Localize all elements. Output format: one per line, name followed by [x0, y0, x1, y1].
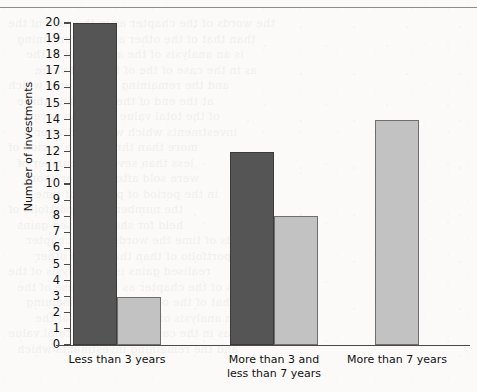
y-axis-tick-label: 1 — [36, 323, 60, 335]
y-axis-tick-label: 2 — [36, 307, 60, 319]
y-axis-tick-label: 20 — [36, 17, 60, 29]
bar-light-2 — [375, 120, 419, 345]
x-axis-line — [56, 345, 470, 346]
y-axis-tick-label: 15 — [36, 98, 60, 110]
y-axis-tick-label: 16 — [36, 81, 60, 93]
y-axis-tick-label: 8 — [36, 210, 60, 222]
y-axis-label: Number of investments — [22, 57, 35, 237]
y-axis-tick-label: 11 — [36, 162, 60, 174]
y-axis-tick-label: 18 — [36, 49, 60, 61]
y-axis-tick-label: 14 — [36, 114, 60, 126]
y-axis-tick-label: 6 — [36, 242, 60, 254]
y-axis-tick-label: 7 — [36, 226, 60, 238]
bar-dark-0 — [73, 23, 117, 345]
y-axis-line — [70, 23, 71, 346]
y-axis-tick-label: 12 — [36, 146, 60, 158]
y-axis-tick-label: 13 — [36, 130, 60, 142]
y-axis-tick-label: 17 — [36, 65, 60, 77]
y-axis-tick-label: 5 — [36, 259, 60, 271]
bar-dark-1 — [230, 152, 274, 345]
y-axis-tick-label: 19 — [36, 33, 60, 45]
y-axis-tick-label: 9 — [36, 194, 60, 206]
category-label-2: More than 7 years — [322, 353, 472, 367]
bar-chart: Number of investments 012345678910111213… — [0, 0, 477, 392]
category-label-0: Less than 3 years — [42, 353, 192, 367]
y-axis-tick-label: 3 — [36, 291, 60, 303]
bar-light-1 — [274, 216, 318, 345]
bar-light-0 — [117, 297, 161, 345]
y-axis-tick-label: 10 — [36, 178, 60, 190]
y-axis-tick-label: 4 — [36, 275, 60, 287]
